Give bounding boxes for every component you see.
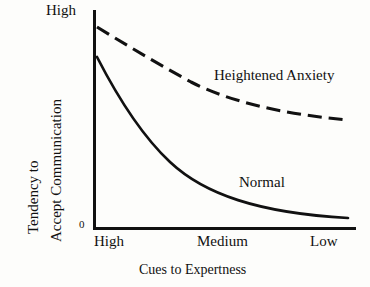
y-axis-title-line-2: Accept Communication: [48, 99, 65, 242]
y-axis-top-label: High: [46, 3, 76, 18]
y-axis-zero-label: 0: [79, 219, 85, 230]
x-axis-tick-low: Low: [310, 234, 338, 249]
chart-figure: High 0 Tendency to Accept Communication …: [0, 0, 370, 287]
x-axis-tick-high: High: [94, 234, 124, 249]
y-axis-title-line-1: Tendency to: [25, 160, 42, 234]
y-axis-title: Tendency to Accept Communication: [8, 62, 64, 242]
series-label-normal: Normal: [239, 175, 285, 190]
x-axis-tick-medium: Medium: [197, 234, 248, 249]
series-label-heightened-anxiety: Heightened Anxiety: [214, 68, 334, 83]
x-axis-title: Cues to Expertness: [139, 263, 246, 277]
